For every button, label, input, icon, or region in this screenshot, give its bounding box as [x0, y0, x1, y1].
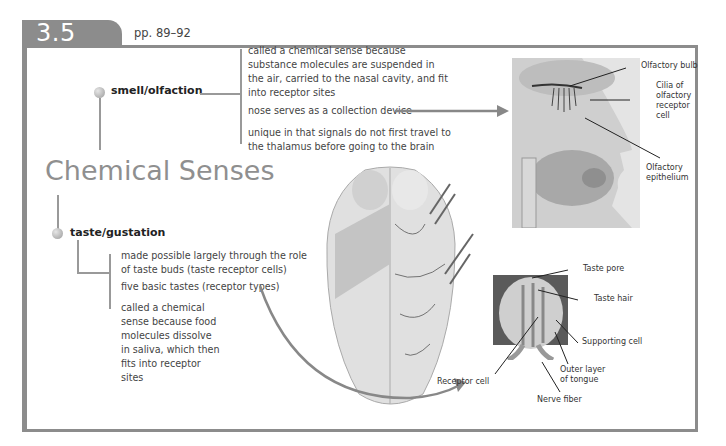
- label-receptor-cell: Receptor cell: [437, 377, 489, 387]
- arrow-to-taste-bud-icon: [240, 280, 470, 410]
- taste-connector-horizontal: [77, 272, 109, 274]
- label-taste-hair: Taste hair: [594, 294, 633, 304]
- label-olfactory-bulb: Olfactory bulb: [641, 61, 701, 71]
- page-range: pp. 89–92: [134, 26, 191, 40]
- taste-connector-down: [77, 240, 79, 273]
- smell-bullet-icon: [94, 87, 105, 98]
- smell-heading: smell/olfaction: [111, 84, 203, 97]
- smell-bracket: [240, 49, 242, 144]
- taste-item-1: made possible largely through the role o…: [121, 249, 311, 277]
- arrow-to-nose-icon: [395, 104, 510, 118]
- taste-item-3: called a chemical sense because food mol…: [121, 301, 221, 385]
- page-title: Chemical Senses: [45, 155, 274, 186]
- nose-label-lines: [560, 58, 670, 178]
- taste-heading: taste/gustation: [70, 226, 165, 239]
- smell-connector-vertical: [99, 98, 101, 150]
- label-cilia: Cilia of olfactory receptor cell: [656, 81, 698, 121]
- label-taste-pore: Taste pore: [583, 264, 624, 274]
- smell-connector-horizontal: [200, 93, 240, 95]
- smell-item-1: called a chemical sense because substanc…: [248, 44, 448, 100]
- label-nerve-fiber: Nerve fiber: [537, 395, 582, 405]
- label-olfactory-epithelium: Olfactory epithelium: [646, 163, 698, 183]
- section-number: 3.5: [36, 19, 76, 47]
- label-supporting-cell: Supporting cell: [582, 337, 642, 347]
- label-outer-layer: Outer layer of tongue: [560, 365, 610, 385]
- taste-bullet-icon: [52, 228, 63, 239]
- taste-bracket: [109, 254, 111, 309]
- smell-item-3: unique in that signals do not first trav…: [248, 126, 458, 154]
